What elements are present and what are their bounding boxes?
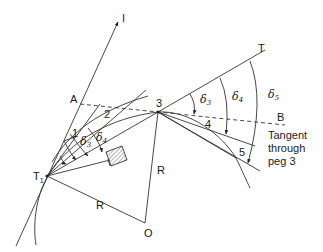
annotation-line-1: Tangent: [268, 129, 307, 141]
label-peg2: 2: [104, 108, 110, 120]
label-delta5-peg3: δ5: [268, 88, 280, 102]
label-delta3-t1: δ3: [80, 135, 92, 149]
label-peg1: 1: [72, 127, 78, 139]
label-i: I: [122, 12, 125, 24]
dashed-chord-a-b: [80, 104, 285, 125]
label-o: O: [144, 227, 153, 239]
annotation-line-2: through: [268, 142, 305, 154]
label-b: B: [277, 111, 284, 123]
label-peg5: 5: [239, 146, 245, 158]
annotation-line-3: peg 3: [268, 155, 296, 167]
label-delta3-peg3: δ3: [200, 93, 212, 107]
label-delta4-t1: δ4: [96, 131, 107, 145]
tangent-line-3-t: [158, 50, 265, 112]
label-a: A: [70, 93, 78, 105]
tangent-annotation: Tangent through peg 3: [268, 129, 307, 167]
circular-curve-arc: [35, 112, 250, 245]
label-radius-2: R: [157, 164, 165, 176]
label-t: T: [258, 42, 265, 54]
label-peg4: 4: [205, 118, 211, 130]
label-peg3: 3: [156, 97, 162, 109]
label-delta4-peg3: δ4: [232, 90, 243, 104]
label-t1: T1: [33, 170, 44, 184]
angle-arcs-peg3: [190, 61, 257, 163]
instrument-icon: [106, 146, 127, 166]
tangent-line-t1-i: [16, 22, 118, 246]
curve-setting-out-diagram: I A T1 T B O 1 2 3 4 5 R R δ3 δ4 δ3 δ4 δ…: [0, 0, 323, 252]
label-radius-1: R: [96, 199, 104, 211]
